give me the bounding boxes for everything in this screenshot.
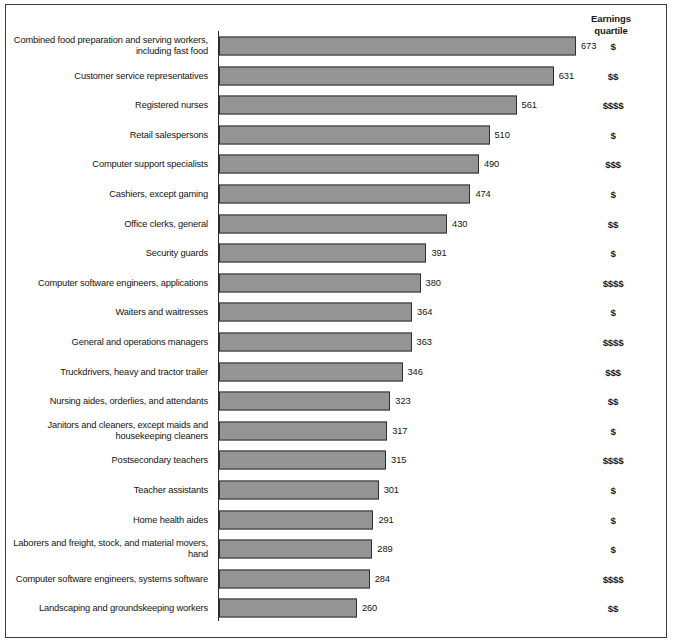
bar-category-label: Computer support specialists <box>6 159 212 170</box>
bar-row: Combined food preparation and serving wo… <box>6 31 667 61</box>
bar-wrapper <box>219 303 412 322</box>
bar-wrapper <box>219 155 479 174</box>
bar-wrapper <box>219 421 387 440</box>
bar-value-label: 474 <box>475 189 490 199</box>
bar-category-label: Postsecondary teachers <box>6 455 212 466</box>
bar-category-label: Janitors and cleaners, except maids and … <box>6 420 212 442</box>
bar-row: Retail salespersons510$ <box>6 120 667 150</box>
bar <box>219 125 490 144</box>
earnings-quartile-value: $$$ <box>570 159 656 170</box>
bar-value-label: 260 <box>362 603 377 613</box>
bar-category-label: Cashiers, except gaming <box>6 189 212 200</box>
bar <box>219 333 412 352</box>
earnings-quartile-value: $$ <box>570 70 656 81</box>
bar-value-label: 291 <box>378 515 393 525</box>
bar-row: Customer service representatives631$$ <box>6 61 667 91</box>
bar-value-label: 284 <box>375 574 390 584</box>
bar-wrapper <box>219 214 447 233</box>
bar-category-label: Teacher assistants <box>6 485 212 496</box>
bar-row: Waiters and waitresses364$ <box>6 297 667 327</box>
bar-row: Registered nurses561$$$$ <box>6 90 667 120</box>
bar-value-label: 364 <box>417 307 432 317</box>
bar-value-label: 289 <box>377 544 392 554</box>
earnings-quartile-value: $ <box>570 544 656 555</box>
bar-value-label: 391 <box>431 248 446 258</box>
bar-wrapper <box>219 569 370 588</box>
bar <box>219 481 379 500</box>
bar-row: Computer software engineers, application… <box>6 268 667 298</box>
bar <box>219 510 373 529</box>
bar-row: Office clerks, general430$$ <box>6 209 667 239</box>
bar-chart-plot-area: Combined food preparation and serving wo… <box>6 5 667 638</box>
bar-value-label: 317 <box>392 426 407 436</box>
bar-value-label: 346 <box>408 367 423 377</box>
bar-wrapper <box>219 481 379 500</box>
bar <box>219 451 386 470</box>
bar <box>219 66 554 85</box>
bar <box>219 96 517 115</box>
bar <box>219 37 576 56</box>
bar-row: Janitors and cleaners, except maids and … <box>6 416 667 446</box>
bar-wrapper <box>219 599 357 618</box>
bar-category-label: Retail salespersons <box>6 129 212 140</box>
bar-wrapper <box>219 273 421 292</box>
bar-category-label: Security guards <box>6 248 212 259</box>
bar-wrapper <box>219 333 412 352</box>
bar-value-label: 561 <box>522 100 537 110</box>
bar-category-label: Landscaping and groundskeeping workers <box>6 603 212 614</box>
bar-wrapper <box>219 392 390 411</box>
bar <box>219 392 390 411</box>
earnings-quartile-value: $ <box>570 129 656 140</box>
earnings-quartile-value: $ <box>570 485 656 496</box>
earnings-quartile-value: $ <box>570 41 656 52</box>
bar-row: Computer support specialists490$$$ <box>6 149 667 179</box>
bar-category-label: Laborers and freight, stock, and materia… <box>6 538 212 560</box>
bar <box>219 303 412 322</box>
bar <box>219 362 403 381</box>
bar-wrapper <box>219 185 470 204</box>
bar-row: General and operations managers363$$$$ <box>6 327 667 357</box>
earnings-quartile-value: $$$ <box>570 366 656 377</box>
bar-row: Laborers and freight, stock, and materia… <box>6 534 667 564</box>
bar-row: Teacher assistants301$ <box>6 475 667 505</box>
bar-wrapper <box>219 66 554 85</box>
bar-value-label: 323 <box>395 396 410 406</box>
bar-category-label: Waiters and waitresses <box>6 307 212 318</box>
bar-value-label: 510 <box>495 130 510 140</box>
bar <box>219 273 421 292</box>
bar-row: Computer software engineers, systems sof… <box>6 564 667 594</box>
bar-row: Security guards391$ <box>6 238 667 268</box>
bar-value-label: 430 <box>452 219 467 229</box>
bar <box>219 214 447 233</box>
bar-row: Postsecondary teachers315$$$$ <box>6 445 667 475</box>
earnings-quartile-value: $ <box>570 189 656 200</box>
earnings-quartile-value: $ <box>570 514 656 525</box>
bar-category-label: Computer software engineers, application… <box>6 277 212 288</box>
earnings-quartile-value: $$ <box>570 218 656 229</box>
bar-wrapper <box>219 96 517 115</box>
bar <box>219 540 372 559</box>
bar-wrapper <box>219 510 373 529</box>
bar-wrapper <box>219 451 386 470</box>
earnings-quartile-value: $$$$ <box>570 573 656 584</box>
earnings-quartile-value: $$ <box>570 603 656 614</box>
earnings-quartile-value: $$$$ <box>570 277 656 288</box>
bar <box>219 421 387 440</box>
bar-category-label: Computer software engineers, systems sof… <box>6 573 212 584</box>
bar-category-label: Office clerks, general <box>6 218 212 229</box>
bar <box>219 569 370 588</box>
bar-wrapper <box>219 125 490 144</box>
bar-value-label: 380 <box>426 278 441 288</box>
earnings-quartile-value: $ <box>570 425 656 436</box>
bar-wrapper <box>219 362 403 381</box>
bar <box>219 244 426 263</box>
bar-category-label: Home health aides <box>6 514 212 525</box>
bar-row: Home health aides291$ <box>6 505 667 535</box>
bar-category-label: Customer service representatives <box>6 70 212 81</box>
earnings-quartile-value: $$$$ <box>570 100 656 111</box>
bar-wrapper <box>219 540 372 559</box>
bar <box>219 599 357 618</box>
earnings-quartile-value: $$ <box>570 396 656 407</box>
bar-row: Landscaping and groundskeeping workers26… <box>6 593 667 623</box>
bar-value-label: 301 <box>384 485 399 495</box>
